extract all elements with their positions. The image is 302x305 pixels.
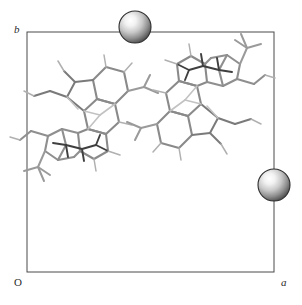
axis-label-b: b	[14, 24, 20, 35]
packing-diagram-canvas	[0, 0, 302, 305]
sphere-right-edge-body	[258, 169, 290, 201]
molecule-right	[127, 34, 275, 160]
sphere-top-edge	[119, 11, 151, 43]
unit-cell-box	[27, 32, 274, 272]
axis-label-a: a	[281, 277, 287, 288]
molecule-left	[10, 55, 158, 181]
sphere-top-edge-body	[119, 11, 151, 43]
sphere-right-edge	[258, 169, 290, 201]
unit-cell-frame	[27, 32, 274, 272]
axis-label-origin: O	[14, 277, 22, 288]
crystal-packing-figure: b a O	[0, 0, 302, 305]
